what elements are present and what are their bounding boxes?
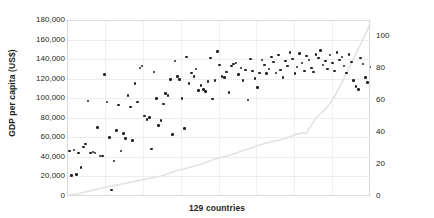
y-axis-right-tick-label: 0: [376, 191, 416, 200]
plot-frame: [67, 20, 370, 196]
y-axis-left-tick-label: 40,000: [5, 152, 65, 161]
chart-container: GDP per capita (US$) Female secondary sc…: [0, 0, 434, 218]
y-axis-left-tick-label: 100,000: [5, 93, 65, 102]
x-axis-title: 129 countries: [0, 203, 434, 213]
y-axis-left-tick-label: 0: [5, 191, 65, 200]
y-axis-right-tick-label: 20: [376, 159, 416, 168]
y-axis-left-tick-label: 160,000: [5, 35, 65, 44]
y-axis-left-tick-label: 180,000: [5, 15, 65, 24]
y-axis-left-tick-label: 20,000: [5, 171, 65, 180]
y-axis-right-tick-label: 40: [376, 127, 416, 136]
y-axis-left-tick-label: 120,000: [5, 74, 65, 83]
y-axis-left-tick-label: 80,000: [5, 113, 65, 122]
y-axis-right-tick-label: 60: [376, 95, 416, 104]
y-axis-left-tick-label: 140,000: [5, 54, 65, 63]
plot-area: [67, 20, 370, 196]
y-axis-right-tick-label: 80: [376, 63, 416, 72]
y-axis-left-tick-label: 60,000: [5, 132, 65, 141]
y-axis-right-tick-label: 100: [376, 31, 416, 40]
